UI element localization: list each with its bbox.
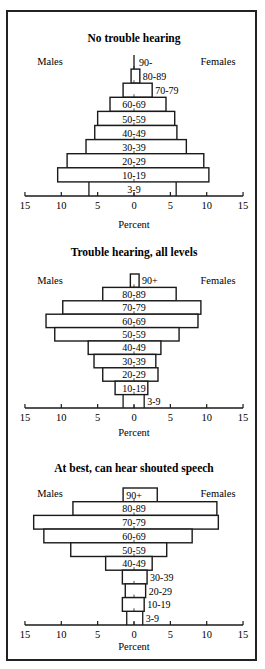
bar-70-79: 70-79 bbox=[34, 515, 219, 529]
x-tick-label: 10 bbox=[56, 412, 67, 423]
bar-10-19: 10-19 bbox=[115, 381, 148, 394]
bar-70-79: 70-79 bbox=[63, 301, 201, 314]
bar-70-79: 70-79 bbox=[123, 83, 178, 97]
age-label: 20-29 bbox=[122, 156, 145, 167]
bar-3-9: 3-9 bbox=[127, 611, 159, 625]
age-label: 3-9 bbox=[147, 396, 160, 407]
x-tick-label: 15 bbox=[20, 629, 31, 640]
age-label: 20-29 bbox=[122, 369, 145, 380]
age-label: 10-19 bbox=[122, 170, 145, 181]
bar-90+: 90+ bbox=[130, 274, 158, 287]
age-label: 80-89 bbox=[143, 71, 166, 82]
age-label: 80-89 bbox=[122, 503, 145, 514]
bar-20-29: 20-29 bbox=[125, 584, 172, 598]
age-label: 50-59 bbox=[122, 545, 145, 556]
females-label: Females bbox=[201, 488, 236, 499]
age-label: 60-69 bbox=[122, 531, 145, 542]
bar-50-59: 50-59 bbox=[71, 543, 167, 557]
age-label: 90+ bbox=[142, 275, 158, 286]
x-tick-label: 10 bbox=[201, 200, 212, 211]
bar-3-9: 3-9 bbox=[123, 395, 160, 408]
bar-3-9: 3-9 bbox=[89, 182, 176, 196]
age-label: 90- bbox=[139, 57, 152, 68]
bar-10-19: 10-19 bbox=[58, 168, 209, 182]
age-label: 70-79 bbox=[122, 302, 145, 313]
chart-panel-2: Trouble hearing, all levelsMalesFemales9… bbox=[20, 246, 249, 438]
x-tick-label: 15 bbox=[238, 412, 249, 423]
age-label: 40-49 bbox=[122, 342, 145, 353]
x-axis: 15105051015Percent bbox=[20, 192, 249, 230]
x-tick-label: 15 bbox=[20, 200, 31, 211]
age-label: 20-29 bbox=[149, 586, 172, 597]
bar-60-69: 60-69 bbox=[110, 97, 166, 111]
x-tick-label: 10 bbox=[201, 412, 212, 423]
females-label: Females bbox=[201, 56, 236, 67]
age-label: 90+ bbox=[126, 490, 142, 501]
males-label: Males bbox=[37, 275, 63, 286]
age-label: 70-79 bbox=[155, 85, 178, 96]
bar-60-69: 60-69 bbox=[44, 529, 192, 543]
x-tick-label: 15 bbox=[238, 200, 249, 211]
x-tick-label: 10 bbox=[201, 629, 212, 640]
age-label: 50-59 bbox=[122, 114, 145, 125]
bar-30-39: 30-39 bbox=[94, 354, 156, 367]
x-tick-label: 15 bbox=[20, 412, 31, 423]
x-axis-label: Percent bbox=[118, 219, 150, 230]
x-axis-label: Percent bbox=[118, 427, 150, 438]
x-tick-label: 5 bbox=[95, 629, 100, 640]
age-label: 40-49 bbox=[122, 128, 145, 139]
x-axis: 15105051015Percent bbox=[20, 404, 249, 438]
age-label: 3-9 bbox=[146, 613, 159, 624]
chart-title: Trouble hearing, all levels bbox=[71, 246, 198, 259]
bar-10-19: 10-19 bbox=[122, 598, 170, 612]
bar-50-59: 50-59 bbox=[55, 328, 179, 341]
x-tick-label: 5 bbox=[95, 412, 100, 423]
chart-panel-1: No trouble hearingMalesFemales90-80-8970… bbox=[20, 32, 249, 230]
bar-80-89: 80-89 bbox=[131, 69, 166, 83]
bar-30-39: 30-39 bbox=[122, 570, 173, 584]
x-tick-label: 5 bbox=[168, 200, 173, 211]
x-tick-label: 5 bbox=[95, 200, 100, 211]
chart-title: At best, can hear shouted speech bbox=[54, 462, 214, 475]
x-tick-label: 10 bbox=[56, 200, 67, 211]
age-label: 40-49 bbox=[122, 558, 145, 569]
x-tick-label: 15 bbox=[238, 629, 249, 640]
x-tick-label: 10 bbox=[56, 629, 67, 640]
bar-80-89: 80-89 bbox=[73, 502, 217, 516]
age-label: 60-69 bbox=[122, 316, 145, 327]
bar-20-29: 20-29 bbox=[103, 368, 158, 381]
bar-30-39: 30-39 bbox=[86, 140, 186, 154]
population-pyramids-figure: No trouble hearingMalesFemales90-80-8970… bbox=[0, 0, 265, 669]
males-label: Males bbox=[37, 56, 63, 67]
bar-50-59: 50-59 bbox=[98, 111, 175, 125]
x-axis-label: Percent bbox=[118, 641, 150, 652]
x-tick-label: 0 bbox=[131, 200, 136, 211]
bar-40-49: 40-49 bbox=[88, 341, 161, 354]
age-label: 80-89 bbox=[122, 289, 145, 300]
bar-40-49: 40-49 bbox=[106, 557, 153, 571]
age-label: 70-79 bbox=[122, 517, 145, 528]
bar-90-: 90- bbox=[134, 55, 152, 69]
females-label: Females bbox=[201, 275, 236, 286]
x-tick-label: 5 bbox=[168, 412, 173, 423]
age-label: 30-39 bbox=[150, 572, 173, 583]
x-tick-label: 0 bbox=[131, 412, 136, 423]
chart-title: No trouble hearing bbox=[87, 32, 180, 45]
males-label: Males bbox=[37, 488, 63, 499]
bar-60-69: 60-69 bbox=[46, 314, 198, 327]
age-label: 60-69 bbox=[122, 99, 145, 110]
chart-panel-3: At best, can hear shouted speechMalesFem… bbox=[20, 462, 249, 652]
age-label: 30-39 bbox=[122, 356, 145, 367]
x-tick-label: 0 bbox=[131, 629, 136, 640]
x-axis: 15105051015Percent bbox=[20, 621, 249, 652]
age-label: 10-19 bbox=[147, 599, 170, 610]
age-label: 10-19 bbox=[122, 383, 145, 394]
age-label: 30-39 bbox=[122, 142, 145, 153]
bar-40-49: 40-49 bbox=[95, 126, 177, 140]
x-tick-label: 5 bbox=[168, 629, 173, 640]
bar-90+: 90+ bbox=[123, 488, 157, 502]
bar-20-29: 20-29 bbox=[67, 154, 204, 168]
bar-80-89: 80-89 bbox=[103, 287, 176, 300]
age-label: 50-59 bbox=[122, 329, 145, 340]
